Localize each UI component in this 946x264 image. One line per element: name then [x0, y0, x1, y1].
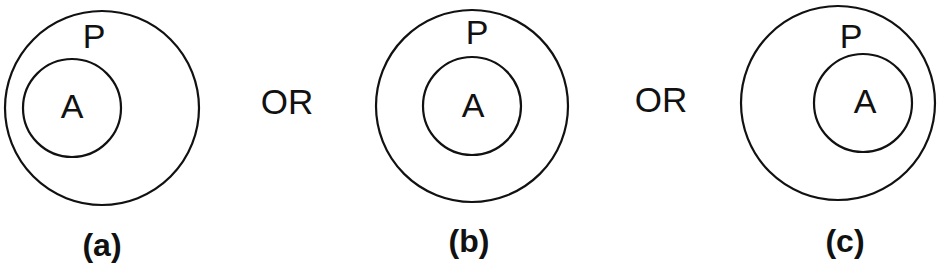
set-label-p: P [840, 17, 863, 55]
set-label-p: P [466, 13, 489, 51]
outer-circle-p [741, 6, 935, 200]
panel-a: P A (a) [5, 11, 199, 263]
set-label-a: A [462, 86, 485, 124]
panel-b: P A (b) [376, 10, 568, 259]
panel-caption-a: (a) [82, 227, 121, 263]
diagram-canvas: P A (a) OR P A (b) OR P A (c) [0, 0, 946, 264]
venn-diagram: P A (a) OR P A (b) OR P A (c) [0, 0, 946, 264]
set-label-a: A [854, 82, 877, 120]
or-separator-1: OR [261, 82, 314, 121]
set-label-a: A [61, 87, 84, 125]
panel-caption-b: (b) [449, 223, 490, 259]
panel-caption-c: (c) [825, 223, 864, 259]
set-label-p: P [83, 17, 106, 55]
panel-c: P A (c) [741, 6, 935, 259]
or-separator-2: OR [635, 80, 688, 119]
